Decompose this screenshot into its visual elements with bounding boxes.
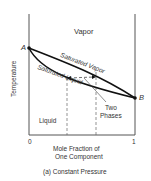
two-phases-label-line1: Two xyxy=(105,104,117,112)
y-axis-label: Temperature xyxy=(10,61,18,98)
point-a-label: A xyxy=(21,44,26,52)
x-axis-label-line2: One Component xyxy=(55,153,103,161)
two-phases-label-line2: Phases xyxy=(100,112,122,120)
point-b-label: B xyxy=(139,94,144,102)
vapor-region-label: Vapor xyxy=(74,28,93,36)
x-axis-label-line1: Mole Fraction of xyxy=(53,145,100,153)
diagram-caption: (a) Constant Pressure xyxy=(43,168,107,176)
x-tick-0: 0 xyxy=(28,138,32,146)
point-a-marker xyxy=(27,46,31,50)
x-tick-1: 1 xyxy=(132,138,136,146)
point-b-marker xyxy=(133,96,137,100)
liquid-region-label: Liquid xyxy=(39,117,56,125)
